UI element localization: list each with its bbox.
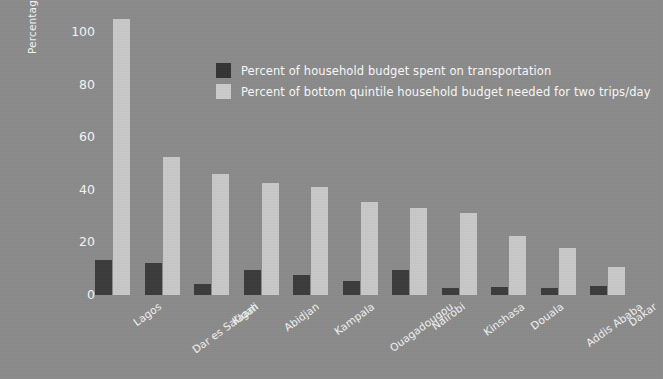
bar[interactable] — [311, 187, 328, 295]
bar-group — [442, 8, 492, 295]
bar[interactable] — [293, 275, 310, 295]
x-axis-tick-label: Kinshasa — [481, 300, 527, 338]
bar[interactable] — [262, 183, 279, 295]
y-axis-tick-100: 100 — [71, 26, 95, 39]
bar[interactable] — [145, 263, 162, 295]
bar-group — [244, 8, 294, 295]
bar-group — [293, 8, 343, 295]
y-axis-tick-20: 20 — [79, 236, 95, 249]
bar-group — [95, 8, 145, 295]
bar[interactable] — [410, 208, 427, 295]
legend-swatch-light-icon — [216, 84, 231, 99]
bar-chart: Percentage of household budget 020406080… — [0, 0, 663, 379]
bar[interactable] — [212, 174, 229, 295]
bar[interactable] — [194, 284, 211, 295]
legend-item-transportation: Percent of household budget spent on tra… — [216, 63, 651, 78]
bar[interactable] — [590, 286, 607, 295]
legend-label: Percent of bottom quintile household bud… — [241, 85, 651, 99]
y-axis-tick-60: 60 — [79, 131, 95, 144]
legend-swatch-dark-icon — [216, 63, 231, 78]
bar-group — [145, 8, 195, 295]
y-axis-tick-0: 0 — [87, 289, 95, 302]
bar[interactable] — [509, 236, 526, 295]
x-axis-tick-label: Douala — [528, 300, 565, 332]
legend-item-bottom-quintile: Percent of bottom quintile household bud… — [216, 84, 651, 99]
bar[interactable] — [608, 267, 625, 295]
y-axis-tick-40: 40 — [79, 184, 95, 197]
x-axis-tick-label: Abidjan — [281, 300, 321, 333]
bar-group — [343, 8, 393, 295]
bar[interactable] — [442, 288, 459, 295]
bar[interactable] — [113, 19, 130, 295]
bar[interactable] — [95, 260, 112, 296]
bar-group — [590, 8, 640, 295]
x-axis-tick-label: Kampala — [332, 300, 377, 337]
bar-group — [194, 8, 244, 295]
bar[interactable] — [163, 157, 180, 295]
bar[interactable] — [541, 288, 558, 295]
bar[interactable] — [460, 213, 477, 295]
bar-group — [541, 8, 591, 295]
x-axis-tick-label: Lagos — [131, 300, 163, 328]
x-axis-tick-label: Ouagadougou — [387, 300, 455, 354]
bar-group — [491, 8, 541, 295]
bar[interactable] — [559, 248, 576, 295]
chart-legend: Percent of household budget spent on tra… — [216, 63, 651, 99]
bar-group — [392, 8, 442, 295]
y-axis-tick-80: 80 — [79, 79, 95, 92]
bar[interactable] — [343, 281, 360, 295]
y-axis-title: Percentage of household budget — [26, 0, 38, 54]
legend-label: Percent of household budget spent on tra… — [241, 64, 551, 78]
bar[interactable] — [491, 287, 508, 295]
bar[interactable] — [244, 270, 261, 295]
y-axis-tick-labels: 020406080100 — [55, 0, 95, 379]
plot-area — [95, 8, 640, 295]
bar[interactable] — [392, 270, 409, 295]
x-axis-tick-labels: LagosDar es SalaamKigaliAbidjanKampalaOu… — [95, 296, 655, 376]
bar[interactable] — [361, 202, 378, 295]
